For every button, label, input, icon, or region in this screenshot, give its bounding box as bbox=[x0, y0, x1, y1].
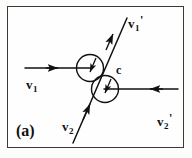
label-v2-base: v bbox=[62, 119, 69, 134]
label-collision-center: c bbox=[116, 61, 121, 77]
panel-label: (a) bbox=[16, 123, 35, 139]
label-v2-sub: 2 bbox=[69, 126, 74, 136]
label-v2-prime: v2' bbox=[157, 112, 172, 131]
panel-label-text: (a) bbox=[16, 122, 35, 139]
label-collision-center-base: c bbox=[116, 63, 121, 77]
diagonal-axis-line bbox=[73, 18, 127, 143]
label-v1-sub: 1 bbox=[33, 84, 38, 94]
label-v1-base: v bbox=[26, 77, 33, 92]
upper-circle-inner-arrow bbox=[90, 58, 96, 72]
label-v1: v1 bbox=[26, 76, 38, 94]
label-v1-prime: v1' bbox=[128, 14, 143, 33]
lower-circle-inner-arrow bbox=[105, 79, 111, 93]
figure-panel-a: v1' v1 v2' v2 c (a) bbox=[0, 0, 192, 158]
label-v1-prime-base: v bbox=[128, 16, 135, 31]
label-v2-prime-base: v bbox=[157, 114, 164, 129]
v1-out-arrowhead bbox=[106, 34, 113, 50]
label-v2-prime-sub: 2 bbox=[164, 121, 169, 131]
label-v2: v2 bbox=[62, 118, 74, 136]
label-v1-prime-mark: ' bbox=[140, 13, 144, 27]
label-v1-prime-sub: 1 bbox=[135, 23, 140, 33]
v2-in-arrowhead bbox=[83, 104, 90, 120]
label-v2-prime-mark: ' bbox=[169, 111, 173, 125]
